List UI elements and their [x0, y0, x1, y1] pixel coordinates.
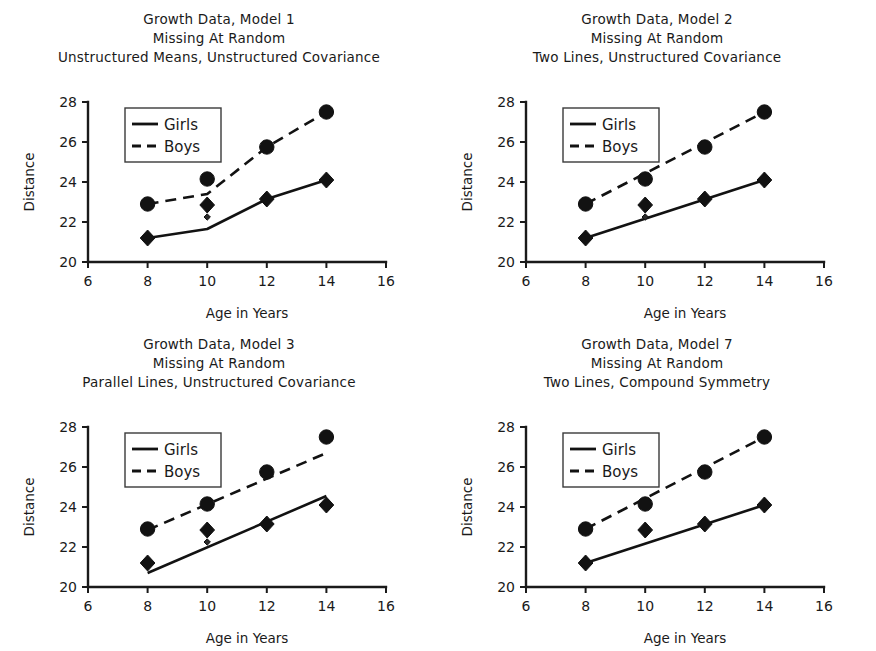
x-tick-label: 8 — [143, 273, 152, 289]
data-point-boys — [757, 105, 771, 119]
x-tick-label: 8 — [143, 598, 152, 614]
legend-label-boys: Boys — [164, 138, 200, 156]
y-tick-label: 22 — [59, 539, 77, 555]
y-tick-label: 24 — [59, 174, 77, 190]
x-tick-label: 16 — [377, 273, 395, 289]
panel-1-plot: 20222426286810121416Age in YearsDistance… — [0, 0, 438, 325]
y-tick-label: 22 — [497, 214, 515, 230]
data-point-boys — [260, 465, 274, 479]
legend-label-boys: Boys — [602, 463, 638, 481]
x-tick-label: 6 — [84, 273, 93, 289]
data-point-girls — [140, 230, 155, 246]
data-point-boys — [698, 465, 712, 479]
panel-7-plot: 20222426286810121416Age in YearsDistance… — [438, 325, 876, 650]
data-point-boys — [200, 497, 214, 511]
data-point-girls — [757, 497, 772, 513]
legend-label-girls: Girls — [164, 116, 198, 134]
data-point-boys — [260, 140, 274, 154]
x-tick-label: 12 — [696, 598, 714, 614]
x-tick-label: 12 — [258, 598, 276, 614]
data-point-girls — [200, 197, 215, 213]
data-point-boys — [698, 140, 712, 154]
data-point-girls — [697, 191, 712, 207]
y-tick-label: 28 — [59, 94, 77, 110]
y-tick-label: 20 — [497, 254, 515, 270]
data-point-boys — [140, 522, 154, 536]
x-tick-label: 14 — [755, 273, 773, 289]
data-point-girls — [200, 522, 215, 538]
chart-panel-7: Growth Data, Model 7 Missing At Random T… — [438, 325, 876, 651]
y-tick-label: 22 — [59, 214, 77, 230]
data-point-boys — [638, 497, 652, 511]
data-point-boys — [578, 522, 592, 536]
y-tick-label: 28 — [497, 419, 515, 435]
legend-label-boys: Boys — [164, 463, 200, 481]
x-tick-label: 16 — [815, 273, 833, 289]
x-tick-label: 10 — [198, 598, 216, 614]
x-tick-label: 10 — [636, 598, 654, 614]
x-tick-label: 14 — [317, 598, 335, 614]
data-point-secondary-girls — [204, 214, 210, 220]
data-point-boys — [578, 197, 592, 211]
y-tick-label: 26 — [497, 134, 515, 150]
y-tick-label: 28 — [497, 94, 515, 110]
y-tick-label: 26 — [497, 459, 515, 475]
x-axis-label: Age in Years — [206, 630, 289, 646]
x-tick-label: 10 — [198, 273, 216, 289]
y-tick-label: 20 — [497, 579, 515, 595]
legend-label-girls: Girls — [164, 441, 198, 459]
fitted-line-girls — [148, 180, 327, 238]
x-tick-label: 6 — [522, 273, 531, 289]
legend-label-girls: Girls — [602, 441, 636, 459]
data-point-boys — [638, 172, 652, 186]
legend-label-girls: Girls — [602, 116, 636, 134]
chart-panel-1: Growth Data, Model 1 Missing At Random U… — [0, 0, 438, 325]
y-tick-label: 24 — [497, 499, 515, 515]
x-tick-label: 12 — [258, 273, 276, 289]
y-axis-label: Distance — [21, 477, 37, 536]
data-point-boys — [757, 430, 771, 444]
x-tick-label: 8 — [581, 273, 590, 289]
panel-3-plot: 20222426286810121416Age in YearsDistance… — [0, 325, 438, 650]
y-tick-label: 28 — [59, 419, 77, 435]
x-tick-label: 14 — [317, 273, 335, 289]
y-tick-label: 26 — [59, 134, 77, 150]
chart-panel-3: Growth Data, Model 3 Missing At Random P… — [0, 325, 438, 651]
data-point-boys — [319, 105, 333, 119]
data-point-girls — [697, 516, 712, 532]
fitted-line-girls — [586, 505, 765, 563]
data-point-boys — [319, 430, 333, 444]
y-axis-label: Distance — [459, 477, 475, 536]
data-point-girls — [578, 230, 593, 246]
data-point-girls — [319, 172, 334, 188]
data-point-secondary-girls — [204, 539, 210, 545]
y-axis-label: Distance — [21, 152, 37, 211]
panel-2-plot: 20222426286810121416Age in YearsDistance… — [438, 0, 876, 325]
x-tick-label: 12 — [696, 273, 714, 289]
data-point-girls — [140, 555, 155, 571]
y-tick-label: 22 — [497, 539, 515, 555]
chart-panel-2: Growth Data, Model 2 Missing At Random T… — [438, 0, 876, 325]
panel-grid: Growth Data, Model 1 Missing At Random U… — [0, 0, 876, 651]
x-tick-label: 10 — [636, 273, 654, 289]
fitted-line-girls — [586, 180, 765, 238]
y-tick-label: 24 — [497, 174, 515, 190]
data-point-girls — [578, 555, 593, 571]
fitted-line-girls — [148, 496, 327, 573]
x-axis-label: Age in Years — [644, 630, 727, 646]
x-axis-label: Age in Years — [206, 305, 289, 321]
y-tick-label: 26 — [59, 459, 77, 475]
x-axis-label: Age in Years — [644, 305, 727, 321]
y-axis-label: Distance — [459, 152, 475, 211]
x-tick-label: 6 — [84, 598, 93, 614]
data-point-girls — [638, 197, 653, 213]
x-tick-label: 16 — [815, 598, 833, 614]
data-point-boys — [140, 197, 154, 211]
y-tick-label: 24 — [59, 499, 77, 515]
x-tick-label: 16 — [377, 598, 395, 614]
data-point-girls — [757, 172, 772, 188]
x-tick-label: 14 — [755, 598, 773, 614]
data-point-girls — [638, 522, 653, 538]
legend-label-boys: Boys — [602, 138, 638, 156]
data-point-girls — [259, 191, 274, 207]
